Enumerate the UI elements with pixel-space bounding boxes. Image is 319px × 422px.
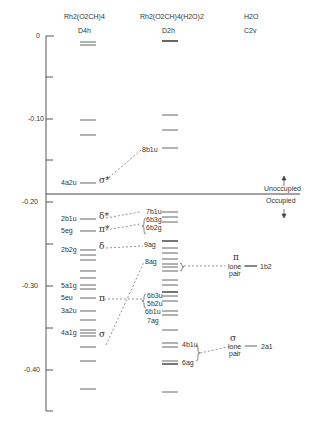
char-sigma-star: σ* [99, 176, 110, 184]
col1-levels [80, 42, 96, 389]
col2-symmetry: D2h [162, 27, 175, 35]
energy-level-diagram: Rh2(O2CH)4 D4h Rh2(O2CH)4(H2O)2 D2h H2O … [0, 0, 319, 422]
label-6b1u: 6b1u [145, 308, 161, 316]
occupied-label: Occupied [266, 197, 296, 205]
char-pi-star: π* [99, 225, 109, 233]
char-pi: π [99, 294, 105, 302]
col1-symmetry: D4h [78, 27, 91, 35]
label-6ag: 6ag [182, 359, 194, 367]
h2o-pi-pair: pair [229, 270, 241, 278]
label-2a1: 2a1 [261, 343, 273, 351]
h2o-pi-label: π [233, 253, 239, 261]
h2o-levels [245, 266, 257, 346]
correlation-lines [104, 150, 232, 353]
label-7ag: 7ag [147, 317, 159, 325]
label-6b3g: 6b3g [146, 216, 162, 224]
label-6b3u: 6b3u [147, 292, 163, 300]
char-delta-star: δ* [99, 212, 109, 220]
col2-formula: Rh2(O2CH)4(H2O)2 [140, 13, 204, 21]
tick-0-30: -0.30 [22, 282, 38, 290]
label-9ag: 9ag [144, 241, 156, 249]
braces [142, 218, 200, 361]
h2o-sigma-label: σ [230, 334, 236, 342]
label-2b2g: 2b2g [61, 246, 77, 254]
label-4a2u: 4a2u [61, 179, 77, 187]
label-8ag: 8ag [145, 258, 157, 266]
char-delta: δ [99, 242, 104, 250]
label-5eu: 5eu [61, 294, 73, 302]
label-1b2: 1b2 [260, 263, 272, 271]
label-5b2u: 5b2u [147, 300, 163, 308]
col1-formula: Rh2(O2CH)4 [64, 13, 105, 21]
col3-symmetry: C2v [244, 27, 256, 35]
col3-formula: H2O [244, 13, 258, 21]
unoccupied-label: Unoccupied [264, 185, 301, 193]
label-6b2g: 6b2g [146, 224, 162, 232]
label-7b1u: 7b1u [146, 208, 162, 216]
char-sigma: σ [99, 330, 105, 338]
label-2b1u: 2b1u [61, 215, 77, 223]
tick-0-10: -0.10 [28, 115, 44, 123]
tick-0-20: -0.20 [22, 198, 38, 206]
label-4a1g: 4a1g [61, 329, 77, 337]
label-8b1u: 8b1u [142, 146, 158, 154]
label-4b1u: 4b1u [182, 341, 198, 349]
label-5a1g: 5a1g [61, 282, 77, 290]
label-5eg: 5eg [61, 227, 73, 235]
label-3a2u: 3a2u [61, 307, 77, 315]
col2-levels [162, 41, 178, 392]
tick-0: 0 [36, 32, 40, 40]
h2o-sigma-pair: pair [229, 350, 241, 358]
tick-0-40: -0.40 [24, 366, 40, 374]
